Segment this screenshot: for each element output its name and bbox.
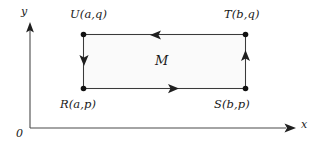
- vertex-label-U: U(a,q): [70, 9, 107, 21]
- vertex-label-R: R(a,p): [60, 99, 96, 111]
- figure-canvas: y x 0 U(a,q) T(b,q) R(a,p) S(b,p) M: [0, 0, 316, 149]
- origin-label: 0: [16, 128, 23, 139]
- y-axis-label: y: [21, 6, 27, 17]
- vertex-dot-U: [81, 32, 87, 38]
- diagram-svg: [0, 0, 316, 149]
- x-axis-label: x: [301, 119, 307, 130]
- region-label-M: M: [155, 54, 168, 67]
- vertex-dot-S: [243, 86, 249, 92]
- vertex-label-S: S(b,p): [214, 99, 250, 111]
- vertex-label-T: T(b,q): [224, 9, 260, 21]
- x-axis-arrowhead: [285, 124, 297, 133]
- vertex-dot-R: [81, 86, 87, 92]
- vertex-dot-T: [243, 32, 249, 38]
